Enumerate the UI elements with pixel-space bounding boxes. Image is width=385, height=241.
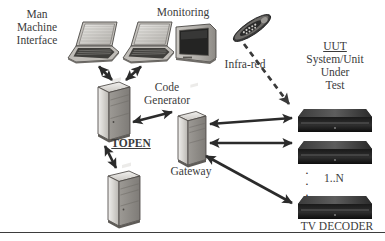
label-tv-decoder: TV DECODER [290,220,384,233]
label-gateway: Gateway [160,165,222,178]
connection-codegen-gateway [133,112,172,122]
label-infra-red: Infra-red [214,58,276,71]
label-multiplicity: 1..N [312,172,356,185]
bottom-divider [0,232,385,233]
label-topen: TOPEN [100,137,162,150]
label-man-machine-interface: Man Machine Interface [4,8,70,47]
label-code-generator: Code Generator [134,81,200,107]
connection-gateway-decodern [206,156,292,203]
tower-code-generator-icon [98,77,130,142]
remote-control-icon [230,10,274,46]
tower-topen-node-icon [108,163,140,229]
connection-infrared-decoder1 [244,44,289,104]
diagram-canvas: Man Machine Interface Monitoring Code Ge… [0,0,385,241]
connection-monitoring-codegen [126,67,141,81]
label-monitoring: Monitoring [140,6,226,19]
laptop-mmi-icon [68,22,119,64]
ellipsis-dot-3: · [300,188,314,201]
decoder-1-icon [298,109,372,132]
crt-monitor-icon [176,24,216,64]
decoder-2-icon [298,141,372,164]
connection-gateway-decoder1 [210,118,292,124]
label-uut: UUT System/Unit Under Test [292,40,378,92]
laptop-monitoring-icon [123,22,174,64]
connection-mmi-codegen [99,67,112,81]
